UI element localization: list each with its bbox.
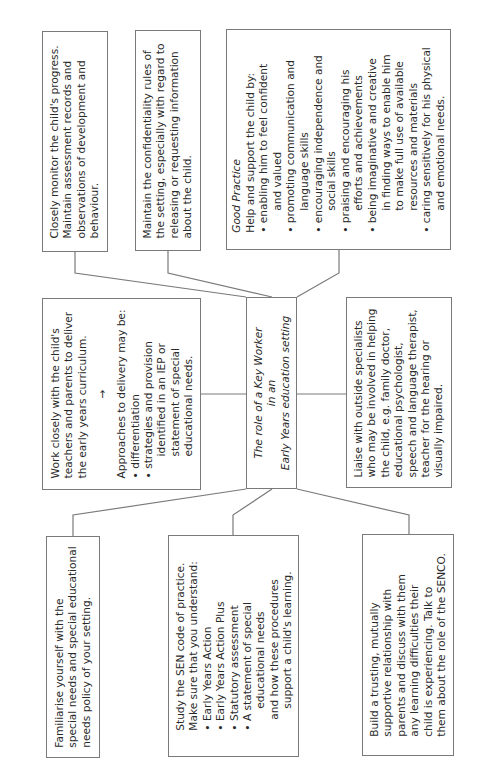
monitor-line-3: observations of development and: [75, 45, 88, 238]
good-practice-bullet-6-cont: and emotional needs.: [434, 47, 448, 233]
liaise-line-5: speech and language therapist,: [406, 308, 419, 477]
confidentiality-line-4: about the child.: [181, 43, 194, 238]
good-practice-bullet-5-cont-1: in finding ways to enable him: [379, 47, 393, 233]
confidentiality-line-2: the setting, especially with regard to: [155, 43, 168, 238]
sen-line-1: Study the SEN code of practice.: [173, 561, 186, 730]
liaise-line-1: Liaise with outside specialists: [352, 308, 365, 477]
good-practice-bullet-5-cont-2: to make full use of available: [393, 47, 407, 233]
liaise-line-3: the child, e.g. family doctor,: [379, 308, 392, 477]
monitor-line-4: behaviour.: [88, 45, 101, 238]
monitor-progress-box: Closely monitor the child's progress. Ma…: [42, 31, 108, 252]
approaches-bullet-2: • strategies and provision: [141, 310, 154, 479]
good-practice-bullet-4: • praising and encouraging his: [339, 47, 353, 233]
confidentiality-box: Maintain the confidentiality rules of th…: [135, 30, 201, 251]
good-practice-intro: Help and support the child by:: [243, 47, 257, 233]
good-practice-bullet-4-cont: efforts and achievements: [352, 47, 366, 233]
arrow-row: →: [88, 310, 114, 479]
approaches-label: Approaches to delivery may be:: [114, 310, 127, 479]
good-practice-bullet-2: • promoting communication and: [284, 47, 298, 233]
confidentiality-line-1: Maintain the confidentiality rules of: [141, 43, 154, 238]
good-practice-bullet-3: • encouraging independence and: [311, 47, 325, 233]
familiarise-line-2: special needs and special educational: [66, 546, 79, 747]
work-closely-box: Work closely with the child's teachers a…: [42, 298, 201, 490]
trust-line-5: child is experiencing. Talk to: [421, 553, 434, 737]
trust-line-2: supportive relationship with: [381, 553, 394, 737]
approaches-bullet-2-cont-2: statement of special: [168, 310, 181, 479]
good-practice-bullet-3-cont: social skills: [325, 47, 339, 233]
familiarise-line-3: needs policy of your setting.: [80, 546, 93, 747]
sen-code-box: Study the SEN code of practice. Make sur…: [168, 535, 299, 757]
monitor-line-1: Closely monitor the child's progress.: [48, 45, 61, 238]
central-title-line-3: Early Years education setting: [278, 316, 291, 470]
approaches-bullet-2-cont-1: identified in an IEP or: [155, 310, 168, 479]
liaise-line-6: teacher for the hearing or: [419, 308, 432, 477]
good-practice-box: Good Practice Help and support the child…: [226, 29, 451, 250]
good-practice-bullet-5: • being imaginative and creative: [366, 47, 380, 233]
central-title-line-2: in an: [265, 316, 278, 470]
sen-bullet-1: • Early Years Action: [200, 561, 213, 730]
liaise-specialists-box: Liaise with outside specialists who may …: [346, 297, 452, 488]
trust-line-1: Build a trusting, mutually: [368, 553, 381, 737]
good-practice-bullet-5-cont-3: resources and materials: [406, 47, 420, 233]
sen-bullet-4-cont: educational needs: [254, 561, 267, 730]
monitor-line-2: Maintain assessment records and: [62, 45, 75, 238]
sen-line-2: Make sure that you understand:: [187, 561, 200, 730]
central-title-line-1: The role of a Key Worker: [251, 316, 264, 470]
work-closely-line-3: the early years curriculum.: [75, 310, 88, 479]
good-practice-bullet-6: • caring sensitively for his physical: [420, 47, 434, 233]
good-practice-heading: Good Practice: [230, 47, 244, 233]
liaise-line-7: visually impaired.: [433, 308, 446, 477]
good-practice-bullet-1-cont: and valued: [271, 47, 285, 233]
familiarise-line-1: Familiarise yourself with the: [53, 546, 66, 747]
arrow-right-icon: →: [88, 390, 114, 399]
central-title-box: The role of a Key Worker in an Early Yea…: [246, 297, 297, 489]
work-closely-line-2: teachers and parents to deliver: [62, 310, 75, 479]
approaches-bullet-2-cont-3: educational needs.: [181, 310, 194, 479]
liaise-line-2: who may be involved in helping: [365, 308, 378, 477]
build-trust-box: Build a trusting, mutually supportive re…: [362, 534, 454, 756]
trust-line-3: parents and discuss with them: [395, 553, 408, 737]
liaise-line-4: educational psychologist,: [392, 308, 405, 477]
confidentiality-line-3: releasing or requesting information: [168, 43, 181, 238]
sen-tail-2: support a child's learning.: [280, 561, 293, 730]
approaches-bullet-1: • differentiation: [128, 310, 141, 479]
good-practice-bullet-2-cont: language skills: [298, 47, 312, 233]
sen-bullet-2: • Early Years Action Plus: [213, 561, 226, 730]
sen-bullet-4: • A statement of special: [240, 561, 253, 730]
work-closely-line-1: Work closely with the child's: [48, 310, 61, 479]
trust-line-4: any learning difficulties their: [408, 553, 421, 737]
good-practice-bullet-1: • enabling him to feel confident: [257, 47, 271, 233]
familiarise-policy-box: Familiarise yourself with the special ne…: [46, 536, 100, 758]
sen-bullet-3: • Statutory assessment: [227, 561, 240, 730]
sen-tail-1: and how these procedures: [267, 561, 280, 730]
trust-line-6: them about the role of the SENCO.: [435, 553, 448, 737]
